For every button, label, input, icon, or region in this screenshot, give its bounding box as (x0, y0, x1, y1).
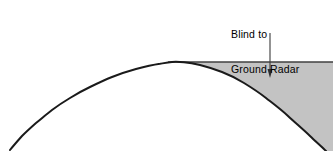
callout-label-line-1: Blind to (231, 29, 299, 41)
callout-label-line-2: Ground Radar (231, 64, 299, 76)
blind-zone-callout-label: Blind to Ground Radar (231, 6, 299, 87)
